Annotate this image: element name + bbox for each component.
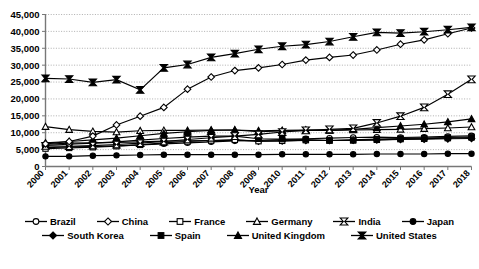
legend-item-germany[interactable]: Germany xyxy=(246,216,312,227)
legend-item-south-korea[interactable]: South Korea xyxy=(42,230,123,241)
data-point-marker xyxy=(421,36,428,43)
legend-key-china xyxy=(97,216,119,227)
x-tick-label: 2016 xyxy=(404,168,425,189)
data-point-marker xyxy=(350,138,355,143)
data-point-marker xyxy=(398,151,403,156)
data-point-marker xyxy=(326,54,333,61)
legend-label-france: France xyxy=(194,216,225,227)
data-point-marker xyxy=(256,152,261,157)
x-tick-label: 2013 xyxy=(333,168,354,189)
x-tick-label: 2007 xyxy=(191,168,212,189)
x-tick-label: 2012 xyxy=(309,168,330,189)
legend-label-germany: Germany xyxy=(271,216,312,227)
legend-label-india: India xyxy=(358,216,380,227)
data-point-marker xyxy=(445,135,450,140)
x-tick-label: 2006 xyxy=(167,168,188,189)
data-point-marker xyxy=(279,136,284,141)
x-tick-label: 2008 xyxy=(214,168,235,189)
data-point-marker xyxy=(410,219,416,225)
data-point-marker xyxy=(113,122,120,129)
x-tick-label: 2018 xyxy=(451,168,472,189)
data-point-marker xyxy=(66,154,71,159)
legend-label-china: China xyxy=(122,216,148,227)
data-point-marker xyxy=(50,232,57,239)
legend-key-india xyxy=(333,216,355,227)
data-point-marker xyxy=(43,154,48,159)
legend-key-brazil xyxy=(25,216,47,227)
x-tick-label: 2014 xyxy=(356,168,377,189)
legend-label-united-kingdom: United Kingdom xyxy=(252,230,325,241)
legend-label-spain: Spain xyxy=(175,230,201,241)
y-tick-label: 25,000 xyxy=(10,76,39,87)
legend-item-spain[interactable]: Spain xyxy=(150,230,201,241)
data-point-marker xyxy=(177,219,183,225)
x-tick-label: 2011 xyxy=(286,168,307,189)
data-point-marker xyxy=(373,47,380,54)
x-tick-label: 2001 xyxy=(49,168,70,189)
y-tick-label: 30,000 xyxy=(10,60,39,71)
data-point-marker xyxy=(208,74,215,81)
legend-row-1: Brazil China France Germany India Japan xyxy=(25,216,454,227)
data-point-marker xyxy=(397,41,404,48)
data-point-marker xyxy=(137,86,144,93)
legend-item-brazil[interactable]: Brazil xyxy=(25,216,76,227)
data-point-marker xyxy=(374,137,379,142)
data-point-marker xyxy=(421,136,426,141)
legend-item-china[interactable]: China xyxy=(97,216,148,227)
data-point-marker xyxy=(397,113,404,120)
legend-key-germany xyxy=(246,216,268,227)
data-point-marker xyxy=(208,152,213,157)
y-tick-label: 20,000 xyxy=(10,93,39,104)
legend-item-india[interactable]: India xyxy=(333,216,380,227)
legend-key-united-states xyxy=(351,230,373,241)
chart-legend: Brazil China France Germany India Japan xyxy=(0,216,479,241)
data-point-marker xyxy=(445,151,450,156)
x-tick-label: 2003 xyxy=(96,168,117,189)
legend-key-france xyxy=(169,216,191,227)
data-point-marker xyxy=(468,116,475,122)
data-point-marker xyxy=(303,137,308,142)
data-point-marker xyxy=(104,218,111,225)
chart-plot-area: 05,00010,00015,00020,00025,00030,00035,0… xyxy=(0,0,479,196)
data-point-marker xyxy=(232,152,237,157)
legend-key-japan xyxy=(402,216,424,227)
data-point-marker xyxy=(137,152,142,157)
legend-label-brazil: Brazil xyxy=(50,216,76,227)
legend-item-japan[interactable]: Japan xyxy=(402,216,454,227)
legend-label-south-korea: South Korea xyxy=(67,230,123,241)
y-tick-label: 40,000 xyxy=(10,26,39,37)
y-tick-label: 5,000 xyxy=(16,144,40,155)
legend-key-united-kingdom xyxy=(227,230,249,241)
data-point-marker xyxy=(350,52,357,59)
data-point-marker xyxy=(158,233,164,239)
y-tick-label: 10,000 xyxy=(10,127,39,138)
data-point-marker xyxy=(185,152,190,157)
data-point-marker xyxy=(231,67,238,74)
data-point-marker xyxy=(90,153,95,158)
data-point-marker xyxy=(279,152,284,157)
data-point-marker xyxy=(469,151,474,156)
data-point-marker xyxy=(327,138,332,143)
data-point-marker xyxy=(444,91,451,98)
x-tick-label: 2000 xyxy=(25,168,46,189)
legend-item-united-states[interactable]: United States xyxy=(351,230,437,241)
y-tick-label: 35,000 xyxy=(10,43,39,54)
figure: 05,00010,00015,00020,00025,00030,00035,0… xyxy=(0,0,479,269)
data-point-marker xyxy=(374,151,379,156)
data-point-marker xyxy=(33,219,39,225)
series-japan xyxy=(43,151,474,159)
x-tick-label: 2017 xyxy=(427,168,448,189)
legend-item-france[interactable]: France xyxy=(169,216,225,227)
data-point-marker xyxy=(42,123,49,129)
data-point-marker xyxy=(350,152,355,157)
x-tick-label: 2002 xyxy=(72,168,93,189)
data-point-marker xyxy=(114,153,119,158)
data-point-marker xyxy=(137,113,144,120)
legend-key-spain xyxy=(150,230,172,241)
data-point-marker xyxy=(302,57,309,64)
x-tick-label: 2004 xyxy=(120,168,141,189)
legend-item-united-kingdom[interactable]: United Kingdom xyxy=(227,230,325,241)
line-chart: 05,00010,00015,00020,00025,00030,00035,0… xyxy=(0,0,479,196)
legend-row-2: South Korea Spain United Kingdom United … xyxy=(42,230,436,241)
legend-label-japan: Japan xyxy=(427,216,454,227)
